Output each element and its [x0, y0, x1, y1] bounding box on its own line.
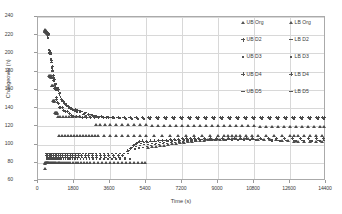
data-point [122, 117, 125, 118]
data-point [213, 117, 216, 118]
data-point [128, 150, 131, 151]
legend-item-ub-d5[interactable]: UB D5 [238, 89, 286, 94]
data-point [186, 124, 190, 127]
legend-item-lb-org[interactable]: LB Org [286, 20, 334, 25]
legend-item-ub-d3[interactable]: UB D3 [238, 54, 286, 59]
data-point [50, 62, 53, 63]
data-point [312, 125, 316, 128]
data-point [210, 124, 214, 127]
data-point [81, 157, 84, 158]
data-point [146, 146, 148, 148]
data-point [47, 34, 50, 35]
x-tick-label: 1800 [53, 186, 93, 191]
data-point [115, 158, 117, 160]
data-point [271, 139, 274, 140]
data-point [142, 147, 144, 149]
data-point [69, 158, 71, 160]
data-point [83, 158, 85, 160]
data-point [299, 137, 302, 140]
data-point [263, 139, 266, 140]
x-tick-mark [289, 180, 290, 183]
data-point [225, 139, 228, 140]
legend-item-lb-d3[interactable]: LB D3 [286, 54, 334, 59]
data-point [190, 140, 192, 142]
data-point [173, 117, 176, 118]
data-point [159, 140, 162, 141]
data-point [163, 140, 166, 141]
data-point [154, 144, 156, 146]
legend-item-lb-d5[interactable]: LB D5 [286, 89, 334, 94]
legend-item-ub-d4[interactable]: UB D4 [238, 72, 286, 77]
data-point [322, 125, 326, 128]
data-point [264, 125, 268, 128]
data-point [246, 124, 250, 127]
data-point [63, 101, 66, 102]
data-point [229, 117, 232, 118]
data-point [129, 158, 131, 160]
data-point [315, 137, 318, 140]
data-point [189, 117, 192, 118]
data-point [255, 139, 258, 140]
legend-label: LB D4 [295, 72, 309, 77]
data-point [197, 117, 200, 118]
scatter-chart-figure: Changeover (h) Time (s) 6080100120140160… [0, 0, 342, 214]
data-point [96, 158, 98, 160]
data-point [302, 134, 306, 137]
x-tick-mark [253, 180, 254, 183]
data-point [285, 117, 288, 118]
data-point [167, 140, 170, 141]
data-point [72, 158, 74, 160]
x-tick-mark [73, 180, 74, 183]
data-point [277, 117, 280, 118]
data-point [301, 117, 304, 118]
data-point [282, 125, 286, 128]
data-point [174, 124, 178, 127]
data-point [168, 124, 172, 127]
data-point [221, 117, 224, 118]
data-point [113, 157, 116, 158]
dash-marker-icon [289, 89, 293, 93]
data-point [59, 92, 62, 93]
x-tick-mark [145, 180, 146, 183]
data-point [99, 116, 102, 117]
legend-label: UB D2 [247, 37, 262, 42]
legend-label: LB D5 [295, 89, 309, 94]
data-point [287, 140, 290, 141]
data-point [60, 99, 63, 100]
legend-item-lb-d2[interactable]: LB D2 [286, 37, 334, 42]
data-point [104, 157, 107, 158]
data-point [114, 134, 118, 137]
data-point [171, 140, 174, 141]
data-point [149, 117, 152, 118]
data-point [306, 125, 310, 128]
data-point [311, 140, 314, 141]
data-point [178, 141, 180, 143]
data-point [222, 124, 226, 127]
data-point [237, 139, 240, 140]
data-point [201, 139, 204, 140]
legend-label: LB D3 [295, 54, 309, 59]
data-point [175, 140, 178, 141]
data-point [288, 125, 292, 128]
data-point [259, 137, 262, 140]
legend-item-ub-org[interactable]: UB Org [238, 20, 286, 25]
data-point [204, 124, 208, 127]
gridline-vertical [218, 17, 219, 179]
data-point [300, 125, 304, 128]
data-point [275, 137, 278, 140]
x-tick-label: 9000 [197, 186, 237, 191]
data-point [77, 110, 80, 111]
legend-item-lb-d4[interactable]: LB D4 [286, 72, 334, 77]
y-tick-label: 100 [0, 141, 13, 146]
legend-label: UB Org [247, 20, 264, 25]
legend-label: UB D3 [247, 54, 262, 59]
legend-item-ub-d2[interactable]: UB D2 [238, 37, 286, 42]
data-point [124, 158, 126, 160]
data-point [151, 141, 154, 142]
data-point [183, 139, 186, 140]
data-point [291, 137, 294, 140]
data-point [86, 158, 88, 160]
y-tick-label: 60 [0, 177, 13, 182]
data-point [269, 117, 272, 118]
data-point [107, 158, 109, 160]
